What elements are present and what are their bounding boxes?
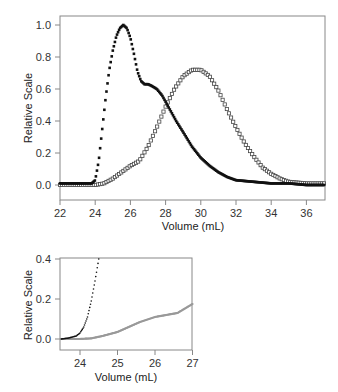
main-y-axis-title: Relative Scale xyxy=(22,73,34,143)
series-gray-dots xyxy=(60,303,193,340)
x-tick-label: 28 xyxy=(159,207,171,219)
inset-y-axis: 0.40.20.0 xyxy=(36,253,60,345)
chart-canvas: 0.00.20.40.60.81.0 2224262830323436 Rela… xyxy=(0,0,338,392)
x-tick-label: 25 xyxy=(111,357,123,369)
main-x-axis-title: Volume (mL) xyxy=(162,220,224,232)
x-tick-label: 24 xyxy=(89,207,101,219)
main-y-axis: 0.00.20.40.60.81.0 xyxy=(36,19,60,191)
inset-x-axis-title: Volume (mL) xyxy=(95,371,157,383)
y-tick-label: 0.8 xyxy=(36,51,51,63)
y-tick-label: 0.2 xyxy=(36,293,51,305)
series-black-dots xyxy=(60,258,99,340)
x-tick-label: 30 xyxy=(195,207,207,219)
y-tick-label: 0.6 xyxy=(36,83,51,95)
inset-plot-frame xyxy=(60,258,192,350)
y-tick-label: 1.0 xyxy=(36,19,51,31)
x-tick-label: 24 xyxy=(74,357,86,369)
main-x-axis: 2224262830323436 xyxy=(54,200,313,219)
x-tick-label: 32 xyxy=(230,207,242,219)
x-tick-label: 26 xyxy=(124,207,136,219)
x-tick-label: 22 xyxy=(54,207,66,219)
y-tick-label: 0.2 xyxy=(36,147,51,159)
x-tick-label: 34 xyxy=(265,207,277,219)
x-tick-label: 27 xyxy=(186,357,198,369)
main-plot-frame xyxy=(60,16,325,200)
series-open-squares xyxy=(58,68,325,186)
main-chart: 0.00.20.40.60.81.0 2224262830323436 Rela… xyxy=(22,16,326,232)
y-tick-label: 0.0 xyxy=(36,333,51,345)
series-filled-squares xyxy=(59,24,326,187)
inset-chart: 0.40.20.0 24252627 Relative Scale Volume… xyxy=(22,253,199,383)
y-tick-label: 0.4 xyxy=(36,253,51,265)
inset-series xyxy=(60,258,193,340)
y-tick-label: 0.0 xyxy=(36,179,51,191)
x-tick-label: 26 xyxy=(149,357,161,369)
inset-x-axis: 24252627 xyxy=(74,350,199,369)
main-series xyxy=(58,24,325,187)
x-tick-label: 36 xyxy=(300,207,312,219)
y-tick-label: 0.4 xyxy=(36,115,51,127)
inset-y-axis-title: Relative Scale xyxy=(22,270,34,340)
